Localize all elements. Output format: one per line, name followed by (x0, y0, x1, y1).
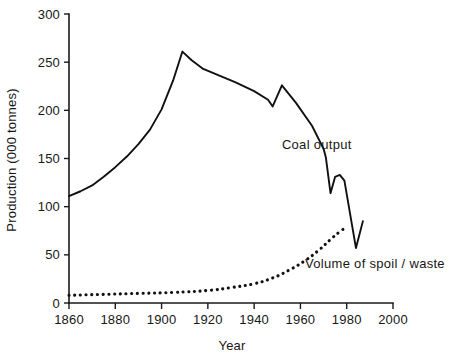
series-annotations: Coal outputVolume of spoil / waste (282, 137, 445, 271)
y-axis-ticks: 050100150200250300 (38, 7, 69, 311)
y-tick-label: 100 (38, 199, 60, 214)
x-tick-label: 1940 (239, 312, 269, 327)
y-tick-label: 250 (38, 55, 60, 70)
x-tick-label: 1960 (286, 312, 316, 327)
x-tick-label: 1860 (54, 312, 84, 327)
x-tick-label: 1880 (100, 312, 130, 327)
y-tick-label: 300 (38, 7, 60, 22)
x-axis-title: Year (218, 338, 246, 353)
series-label-coal-output: Coal output (282, 137, 352, 152)
chart-svg: 050100150200250300 186018801900192019401… (0, 0, 460, 357)
x-tick-label: 1920 (193, 312, 223, 327)
y-tick-label: 200 (38, 103, 60, 118)
y-tick-label: 0 (53, 296, 60, 311)
y-tick-label: 150 (38, 151, 60, 166)
series-label-volume-of-spoil-waste: Volume of spoil / waste (305, 256, 445, 271)
y-axis-title: Production (000 tonnes) (4, 88, 19, 231)
x-tick-label: 1980 (332, 312, 362, 327)
chart-figure: 050100150200250300 186018801900192019401… (0, 0, 460, 357)
x-tick-label: 1900 (147, 312, 177, 327)
y-tick-label: 50 (45, 247, 60, 262)
x-tick-label: 2000 (378, 312, 408, 327)
x-axis-ticks: 18601880190019201940196019802000 (54, 303, 408, 327)
